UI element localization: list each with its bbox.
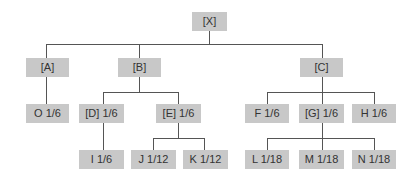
connector — [139, 44, 140, 58]
connector — [209, 31, 210, 44]
node-j: J 1/12 — [131, 150, 176, 169]
connector — [178, 123, 179, 138]
connector — [374, 92, 375, 104]
node-b: [B] — [118, 58, 161, 77]
connector — [267, 138, 375, 139]
node-g: [G] 1/6 — [299, 104, 344, 123]
connector — [267, 92, 268, 104]
connector — [103, 92, 104, 104]
node-d: [D] 1/6 — [79, 104, 124, 123]
connector — [139, 77, 140, 92]
node-h: H 1/6 — [352, 104, 396, 123]
node-f: F 1/6 — [245, 104, 289, 123]
connector — [103, 123, 104, 150]
connector — [153, 138, 205, 139]
node-o: O 1/6 — [26, 104, 69, 123]
connector — [374, 138, 375, 150]
connector — [46, 44, 47, 58]
connector — [46, 44, 323, 45]
connector — [204, 138, 205, 150]
node-k: K 1/12 — [183, 150, 228, 169]
connector — [322, 123, 323, 150]
connector — [322, 77, 323, 104]
connector — [178, 92, 179, 104]
connector — [322, 44, 323, 58]
node-e: [E] 1/6 — [156, 104, 201, 123]
connector — [267, 92, 375, 93]
connector — [267, 138, 268, 150]
node-a: [A] — [26, 58, 69, 77]
node-m: M 1/18 — [299, 150, 344, 169]
node-i: I 1/6 — [79, 150, 124, 169]
node-x: [X] — [192, 12, 227, 31]
node-c: [C] — [300, 58, 343, 77]
node-l: L 1/18 — [245, 150, 289, 169]
node-n: N 1/18 — [352, 150, 396, 169]
connector — [103, 92, 179, 93]
tree-diagram: [X] [A] [B] [C] O 1/6 [D] 1/6 [E] 1/6 F … — [0, 0, 418, 181]
connector — [153, 138, 154, 150]
connector — [46, 77, 47, 104]
